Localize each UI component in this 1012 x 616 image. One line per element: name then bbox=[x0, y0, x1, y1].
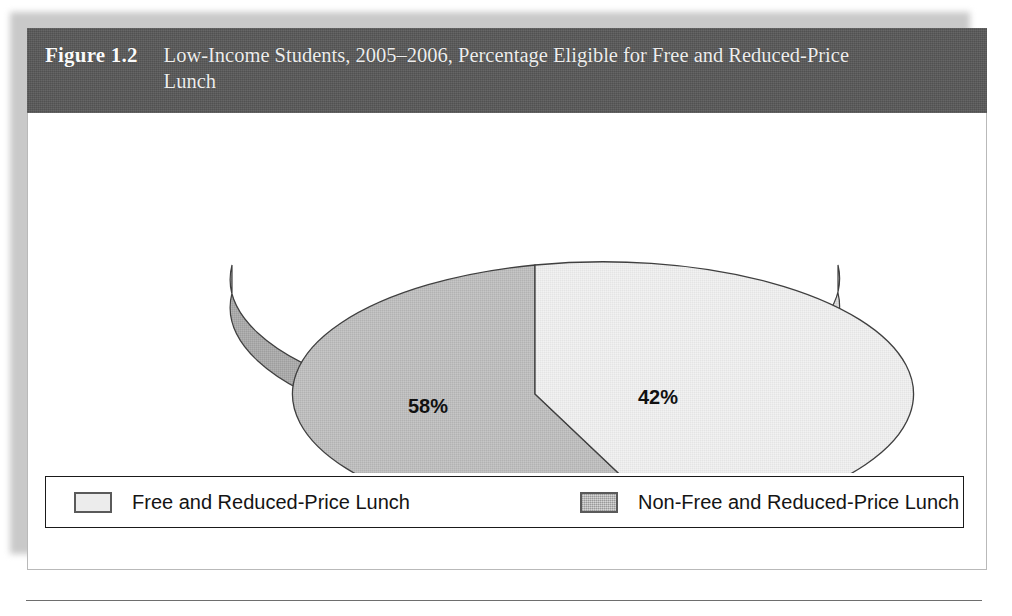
figure-header-band: Figure 1.2 Low-Income Students, 2005–200… bbox=[27, 28, 987, 113]
legend-label-nonfree: Non-Free and Reduced-Price Lunch bbox=[638, 491, 959, 514]
legend-swatch-icon-free bbox=[74, 492, 112, 513]
legend-label-free: Free and Reduced-Price Lunch bbox=[132, 491, 410, 514]
figure-body: 58% 42% Free and Reduced-Price Lunch Non… bbox=[27, 113, 987, 570]
figure-header-row: Figure 1.2 Low-Income Students, 2005–200… bbox=[45, 42, 987, 94]
pie-chart-svg: 58% 42% bbox=[28, 113, 986, 473]
pie-slice-free bbox=[535, 262, 914, 473]
figure-title-text: Low-Income Students, 2005–2006, Percenta… bbox=[164, 42, 864, 94]
legend-item-non-free-reduced-price-lunch[interactable]: Non-Free and Reduced-Price Lunch bbox=[580, 491, 959, 514]
pie-chart-area: 58% 42% bbox=[28, 113, 986, 473]
figure-number-label: Figure 1.2 bbox=[45, 42, 164, 68]
chart-legend: Free and Reduced-Price Lunch Non-Free an… bbox=[45, 476, 964, 528]
pie-label-nonfree: 58% bbox=[408, 395, 448, 417]
pie-top-face bbox=[292, 262, 913, 473]
page-horizontal-rule bbox=[26, 600, 982, 601]
pie-label-free: 42% bbox=[638, 386, 678, 408]
legend-swatch-icon-nonfree bbox=[580, 492, 618, 513]
legend-item-free-reduced-price-lunch[interactable]: Free and Reduced-Price Lunch bbox=[74, 491, 410, 514]
figure-container: Figure 1.2 Low-Income Students, 2005–200… bbox=[27, 28, 987, 570]
